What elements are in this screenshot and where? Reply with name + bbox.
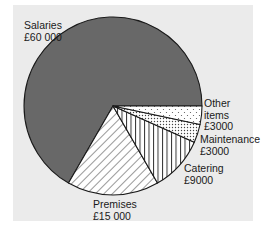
label-catering: Catering £9000 <box>184 163 224 186</box>
label-salaries-value: £60 000 <box>24 32 62 44</box>
label-other-value: £3000 <box>204 121 233 133</box>
label-other-items: Other items £3000 <box>204 98 233 133</box>
label-premises-value: £15 000 <box>93 211 137 223</box>
label-maintenance-value: £3000 <box>200 146 260 158</box>
label-salaries-name: Salaries <box>24 20 62 32</box>
label-catering-value: £9000 <box>184 175 224 187</box>
label-maintenance-name: Maintenance <box>200 134 260 146</box>
label-premises-name: Premises <box>93 199 137 211</box>
label-catering-name: Catering <box>184 163 224 175</box>
label-maintenance: Maintenance £3000 <box>200 134 260 157</box>
label-premises: Premises £15 000 <box>93 199 137 222</box>
label-salaries: Salaries £60 000 <box>24 20 62 43</box>
label-other-name-1: Other <box>204 98 233 110</box>
